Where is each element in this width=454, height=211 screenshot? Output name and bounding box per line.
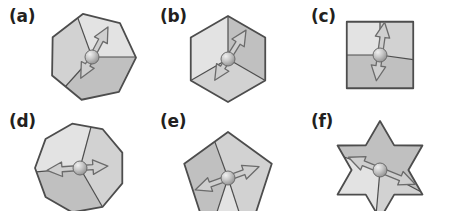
figure-container: (a)(b)(c)(d)(e)(f) bbox=[0, 0, 454, 211]
shape-diagram-f bbox=[0, 0, 454, 211]
center-sphere-f bbox=[373, 163, 387, 177]
panel-f: (f) bbox=[302, 105, 454, 211]
polygon-group-f bbox=[338, 121, 423, 211]
